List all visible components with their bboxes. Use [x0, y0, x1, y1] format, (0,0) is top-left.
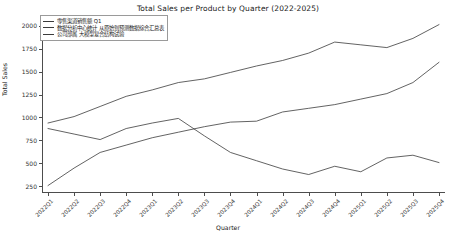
series-line-3 — [48, 62, 439, 185]
y-tick-label: 1750 — [0, 45, 37, 52]
plot-area — [42, 20, 445, 192]
x-tick-label: 2025Q2 — [366, 198, 393, 225]
chart-title: Total Sales per Product by Quarter (2022… — [0, 4, 456, 13]
x-tick-label: 2024Q3 — [288, 198, 315, 225]
x-tick-label: 2023Q3 — [184, 198, 211, 225]
chart-figure: Total Sales per Product by Quarter (2022… — [0, 0, 456, 237]
x-tick-mark — [178, 193, 179, 196]
legend-item[interactable]: 公司部属 大模型复合结构试验 — [43, 31, 164, 38]
y-tick-label: 2000 — [0, 22, 37, 29]
x-tick-mark — [126, 193, 127, 196]
y-tick-label: 750 — [0, 137, 37, 144]
x-tick-mark — [413, 193, 414, 196]
x-tick-label: 2022Q4 — [106, 198, 133, 225]
x-tick-mark — [283, 193, 284, 196]
x-tick-label: 2022Q2 — [53, 198, 80, 225]
x-tick-mark — [257, 193, 258, 196]
chart-legend: 零售渠道销售额 Q1数据分析中心统计 从原始到预测数据综合汇总表公司部属 大模型… — [40, 15, 168, 41]
x-tick-label: 2025Q1 — [340, 198, 367, 225]
x-tick-mark — [152, 193, 153, 196]
y-tick-label: 500 — [0, 160, 37, 167]
y-tick-label: 1500 — [0, 68, 37, 75]
y-axis-label: Total Sales — [1, 50, 8, 110]
y-tick-label: 1000 — [0, 114, 37, 121]
x-tick-mark — [230, 193, 231, 196]
x-tick-label: 2023Q4 — [210, 198, 237, 225]
x-tick-label: 2022Q1 — [27, 198, 54, 225]
x-tick-mark — [335, 193, 336, 196]
x-tick-label: 2023Q1 — [132, 198, 159, 225]
series-lines — [42, 20, 445, 192]
x-tick-mark — [204, 193, 205, 196]
x-axis-label: Quarter — [0, 224, 456, 231]
x-tick-label: 2024Q2 — [262, 198, 289, 225]
x-tick-mark — [48, 193, 49, 196]
x-tick-label: 2022Q3 — [79, 198, 106, 225]
series-line-2 — [48, 118, 439, 174]
legend-swatch-icon — [43, 27, 54, 28]
x-tick-mark — [361, 193, 362, 196]
x-tick-label: 2024Q1 — [236, 198, 263, 225]
x-tick-mark — [74, 193, 75, 196]
x-tick-label: 2023Q2 — [158, 198, 185, 225]
x-tick-mark — [439, 193, 440, 196]
y-tick-label: 250 — [0, 183, 37, 190]
x-tick-label: 2024Q4 — [314, 198, 341, 225]
legend-swatch-icon — [43, 34, 54, 35]
x-tick-mark — [387, 193, 388, 196]
x-tick-mark — [100, 193, 101, 196]
x-tick-label: 2025Q4 — [418, 198, 445, 225]
y-tick-label: 1250 — [0, 91, 37, 98]
x-tick-mark — [309, 193, 310, 196]
legend-label: 公司部属 大模型复合结构试验 — [57, 31, 124, 38]
x-tick-label: 2025Q3 — [392, 198, 419, 225]
legend-swatch-icon — [43, 21, 54, 22]
x-axis-line — [42, 192, 445, 193]
